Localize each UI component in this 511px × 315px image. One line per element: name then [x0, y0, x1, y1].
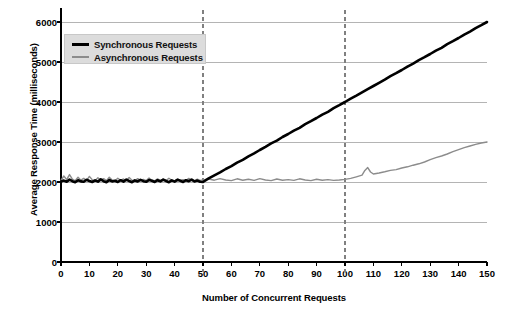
- legend-item-asynchronous: Asynchronous Requests: [72, 50, 203, 64]
- legend-label-asynchronous: Asynchronous Requests: [94, 52, 203, 63]
- legend-label-synchronous: Synchronous Requests: [94, 39, 197, 50]
- legend-swatch-synchronous-icon: [72, 43, 89, 46]
- legend-swatch-asynchronous-icon: [72, 56, 89, 58]
- chart-legend: Synchronous Requests Asynchronous Reques…: [64, 34, 206, 64]
- legend-item-synchronous: Synchronous Requests: [72, 37, 197, 51]
- chart-figure: Average Response Time (milliseconds) Num…: [0, 0, 511, 315]
- series-line-asynchronous-requests: [61, 142, 487, 181]
